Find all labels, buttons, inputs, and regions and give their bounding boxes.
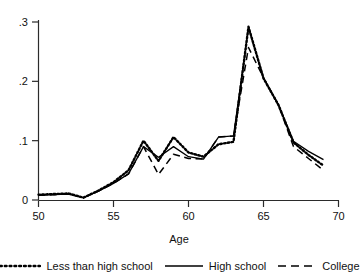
legend-entry[interactable]: Less than high school [0, 260, 153, 272]
x-tick-label: 60 [182, 210, 194, 222]
legend-label: High school [209, 260, 266, 272]
legend-dotted-swatch-icon [0, 261, 41, 271]
x-tick-label: 55 [107, 210, 119, 222]
legend-label: Less than high school [46, 260, 152, 272]
y-tick-label: .3 [19, 16, 28, 28]
y-axis-tick-labels: 0.1.2.3 [19, 16, 28, 206]
legend-entry[interactable]: College [277, 260, 359, 272]
x-tick-label: 65 [257, 210, 269, 222]
x-axis-tick-labels: 5055606570 [32, 210, 344, 222]
legend-solid-swatch-icon [164, 261, 204, 271]
x-axis-title: Age [169, 233, 189, 245]
legend-label: College [322, 260, 359, 272]
axis-group [32, 20, 339, 207]
series-line [39, 48, 324, 198]
data-series-group [39, 27, 324, 198]
y-tick-label: .2 [19, 75, 28, 87]
x-tick-label: 70 [332, 210, 344, 222]
legend-dashed-swatch-icon [277, 261, 317, 271]
y-tick-label: .1 [19, 135, 28, 147]
chart-legend: Less than high schoolHigh schoolCollege [0, 260, 359, 272]
legend-entry[interactable]: High school [164, 260, 266, 272]
x-axis-ticks [39, 201, 339, 208]
x-tick-label: 50 [32, 210, 44, 222]
y-axis-ticks [32, 22, 39, 200]
y-tick-label: 0 [22, 194, 28, 206]
